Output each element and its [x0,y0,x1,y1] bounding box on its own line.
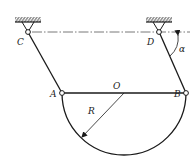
pin-joint-icon [26,30,31,35]
label-alpha: α [179,44,185,54]
label-C: C [17,37,24,47]
label-D: D [146,37,154,47]
rod-DB [160,34,186,93]
joint-A-icon [60,91,65,96]
angle-alpha-arc [170,35,178,56]
mechanism-diagram: C D A B O R α [0,0,192,157]
label-B: B [173,89,181,99]
pin-joint-icon [157,30,162,35]
label-O: O [113,81,121,91]
label-A: A [49,89,57,99]
ground-hatch-icon [15,17,41,22]
label-R: R [87,106,95,116]
joint-B-icon [184,91,189,96]
ground-hatch-icon [146,17,172,22]
rod-CA [29,34,62,93]
semicircular-plate-AB [62,93,186,155]
